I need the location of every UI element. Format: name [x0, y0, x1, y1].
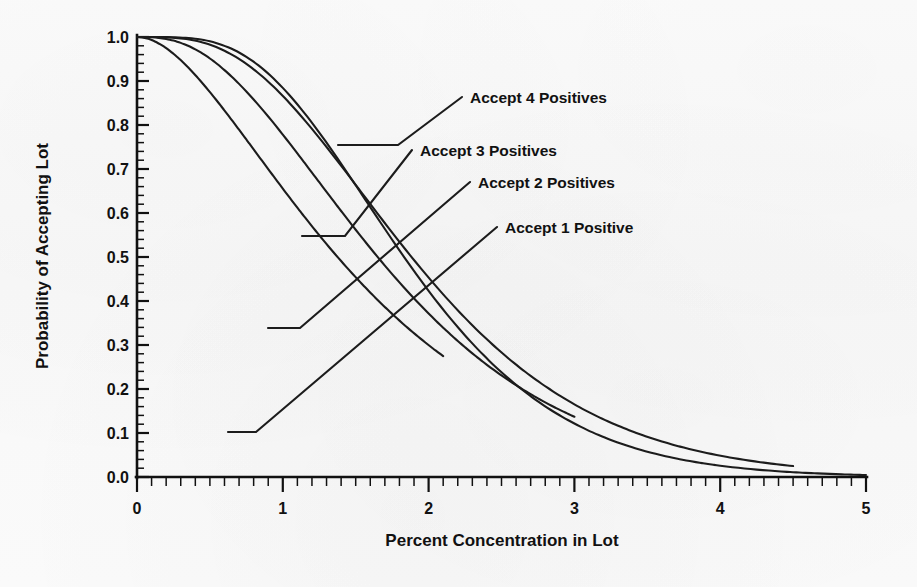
series-annotation-labels-group: Accept 4 PositivesAccept 3 PositivesAcce… [420, 89, 634, 236]
x-tick-label: 1 [278, 500, 287, 517]
y-axis-title: Probability of Accepting Lot [33, 143, 52, 369]
y-axis-group: 0.00.10.20.30.40.50.60.70.80.91.0 [107, 29, 149, 486]
leader-line-4 [228, 227, 497, 432]
x-axis-ticks [137, 477, 866, 492]
x-axis-title: Percent Concentration in Lot [385, 531, 619, 550]
series-annotation-1: Accept 4 Positives [470, 89, 607, 106]
x-tick-label: 0 [133, 500, 142, 517]
x-axis-tick-labels: 012345 [133, 500, 871, 517]
y-tick-label: 0.1 [107, 425, 129, 442]
x-tick-label: 5 [862, 500, 871, 517]
x-axis-group: 012345 [133, 477, 871, 517]
oc-curve-1 [137, 37, 443, 356]
y-tick-label: 0.9 [107, 73, 129, 90]
y-tick-label: 1.0 [107, 29, 129, 46]
y-tick-label: 0.8 [107, 117, 129, 134]
x-tick-label: 2 [424, 500, 433, 517]
series-annotation-4: Accept 1 Positive [505, 219, 634, 236]
y-tick-label: 0.0 [107, 469, 129, 486]
oc-curve-3 [137, 37, 793, 466]
x-tick-label: 4 [716, 500, 725, 517]
series-annotation-3: Accept 2 Positives [478, 174, 615, 191]
y-tick-label: 0.2 [107, 381, 129, 398]
leader-line-2 [302, 150, 412, 236]
oc-curves-chart: 0.00.10.20.30.40.50.60.70.80.91.0 012345… [0, 0, 917, 587]
x-tick-label: 3 [570, 500, 579, 517]
y-tick-label: 0.4 [107, 293, 129, 310]
y-tick-label: 0.7 [107, 161, 129, 178]
y-axis-ticks [137, 37, 149, 477]
y-tick-label: 0.5 [107, 249, 129, 266]
y-tick-label: 0.3 [107, 337, 129, 354]
chart-canvas: 0.00.10.20.30.40.50.60.70.80.91.0 012345… [0, 0, 917, 587]
series-annotation-2: Accept 3 Positives [420, 142, 557, 159]
y-axis-tick-labels: 0.00.10.20.30.40.50.60.70.80.91.0 [107, 29, 129, 486]
y-tick-label: 0.6 [107, 205, 129, 222]
leader-line-1 [338, 97, 462, 145]
